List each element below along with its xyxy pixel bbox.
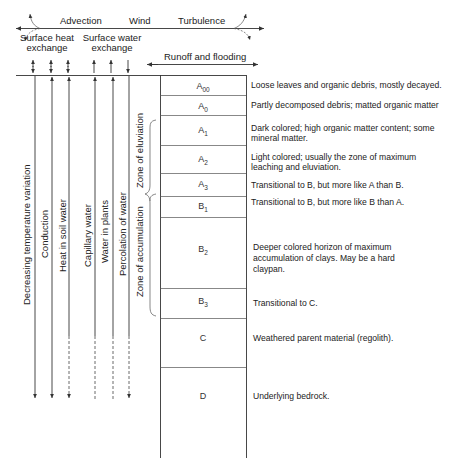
heat-soil-water-label: Heat in soil water [57,199,68,272]
branch-arrow-down-right-icon [234,29,250,41]
capillary-label: Capillary water [82,204,93,267]
desc-c: Weathered parent material (regolith). [253,333,393,343]
surface-exchange-arrows [33,60,128,73]
horizon-b2: B2 [198,244,208,256]
desc-a1-line2: mineral matter. [251,133,308,143]
horizon-b3: B3 [198,296,208,308]
soil-profile-column: A00 A0 A1 A2 A3 B1 B2 B3 C D [160,75,247,458]
horizon-descriptions: Loose leaves and organic debris, mostly … [251,80,442,401]
horizon-b1: B1 [198,201,208,213]
atmosphere-flow: Advection Wind Turbulence Surface heat e… [16,14,264,53]
desc-a1-line1: Dark colored; high organic matter conten… [251,123,435,133]
desc-a2-line2: leaching and eluviation. [251,162,341,172]
temperature-label: Decreasing temperature variation [21,165,32,305]
desc-a00: Loose leaves and organic debris, mostly … [251,80,442,90]
process-labels: Decreasing temperature variation Conduct… [21,165,128,305]
water-plants-label: Water in plants [99,200,110,263]
turbulence-label: Turbulence [178,15,225,26]
horizon-d: D [200,391,207,401]
horizon-c: C [200,333,207,343]
zone-accumulation-label: Zone of accumulation [134,206,145,297]
eluviation-brace [145,120,156,203]
desc-a0: Partly decomposed debris; matted organic… [251,100,439,110]
accumulation-brace-top [150,194,156,201]
desc-b2-line1: Deeper colored horizon of maximum [253,242,392,252]
runoff-flow: Runoff and flooding [147,51,258,65]
conduction-label: Conduction [39,210,50,258]
desc-b3: Transitional to C. [253,298,318,308]
horizon-a3: A3 [198,179,208,191]
runoff-label: Runoff and flooding [164,51,246,62]
desc-d: Underlying bedrock. [253,391,329,401]
advection-label: Advection [60,15,102,26]
desc-b2-line3: claypan. [253,264,285,274]
horizon-a2: A2 [198,154,208,166]
wind-label: Wind [129,15,151,26]
zone-eluviation-label: Zone of eluviation [134,113,145,188]
desc-a3: Transitional to B, but more like A than … [251,180,404,190]
accumulation-brace [150,203,156,316]
horizon-a00: A00 [196,81,210,93]
desc-b2-line2: accumulation of clays. May be a hard [253,253,395,263]
branch-arrow-up-icon [30,14,40,29]
desc-a2-line1: Light colored; usually the zone of maxim… [251,152,416,162]
branch-arrow-up-right-icon [234,14,246,29]
soil-profile-diagram: Advection Wind Turbulence Surface heat e… [0,0,458,471]
surface-water-label-2: exchange [91,42,132,53]
zone-braces: Zone of eluviation Zone of accumulation [134,113,156,316]
horizon-a0: A0 [198,101,208,113]
horizon-a1: A1 [198,125,208,137]
percolation-label: Percolation of water [117,192,128,276]
desc-b1: Transitional to B, but more like B than … [251,197,404,207]
surface-heat-label-2: exchange [26,42,67,53]
